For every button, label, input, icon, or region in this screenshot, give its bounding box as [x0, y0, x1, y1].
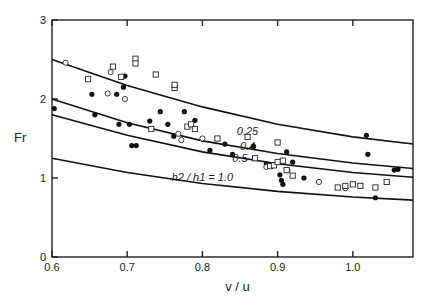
curve-label: h2 / h1 = 1.0 — [172, 171, 234, 183]
open-square-marker — [119, 74, 124, 79]
filled-circle-marker — [364, 133, 369, 138]
x-tick-label: 0.9 — [270, 261, 285, 273]
open-square-marker — [245, 134, 250, 139]
filled-circle-marker — [251, 144, 256, 149]
open-square-marker — [172, 82, 177, 87]
x-tick-label: 0.7 — [120, 261, 135, 273]
y-tick-label: 0 — [40, 251, 46, 263]
open-square-marker — [86, 77, 91, 82]
open-circle-marker — [179, 137, 184, 142]
open-square-marker — [384, 179, 389, 184]
filled-circle-marker — [147, 119, 152, 124]
curve-group: 0.250.40.5h2 / h1 = 1.0 — [52, 60, 413, 201]
open-circle-marker — [63, 60, 68, 65]
open-square-marker — [133, 61, 138, 66]
filled-circle-marker — [121, 85, 126, 90]
filled-circle-marker — [280, 182, 285, 187]
open-square-marker — [153, 72, 158, 77]
open-square-marker — [284, 168, 289, 173]
x-tick-label: 0.8 — [195, 261, 210, 273]
y-tick-label: 2 — [40, 93, 46, 105]
open-square-marker — [252, 156, 257, 161]
filled-circle-marker — [290, 160, 295, 165]
open-square-marker — [290, 173, 295, 178]
filled-circle-marker — [230, 152, 235, 157]
filled-circle-marker — [116, 122, 121, 127]
open-circle-marker — [200, 136, 205, 141]
filled-circle-marker — [301, 175, 306, 180]
open-square-marker — [275, 160, 280, 165]
x-tick-label: 1.0 — [345, 261, 360, 273]
filled-circle-marker — [284, 149, 289, 154]
open-square-marker — [373, 185, 378, 190]
open-square-marker — [149, 126, 154, 131]
filled-circle-marker — [52, 106, 57, 111]
open-square-marker — [350, 182, 355, 187]
filled-circle-marker — [395, 167, 400, 172]
open-square-marker — [110, 64, 115, 69]
x-axis-label: v / u — [225, 279, 250, 294]
y-axis-label: Fr — [14, 130, 27, 145]
filled-circle-marker — [129, 143, 134, 148]
open-square-marker — [343, 183, 348, 188]
x-tick-label: 0.6 — [44, 261, 59, 273]
filled-circle-marker — [277, 172, 282, 177]
open-square-marker — [275, 140, 280, 145]
filled-circle-marker — [207, 148, 212, 153]
open-circle-marker — [108, 70, 113, 75]
y-tick-label: 3 — [40, 14, 46, 26]
open-circle-marker — [316, 179, 321, 184]
chart: 0.60.70.80.91.00123 0.250.40.5h2 / h1 = … — [0, 0, 428, 303]
open-square-marker — [358, 183, 363, 188]
filled-circle-marker — [373, 195, 378, 200]
open-square-marker — [280, 158, 285, 163]
open-circle-marker — [105, 91, 110, 96]
open-circle-marker — [176, 131, 181, 136]
filled-circle-marker — [92, 112, 97, 117]
filled-circle-marker — [134, 143, 139, 148]
curve-line — [52, 60, 413, 145]
y-tick-label: 1 — [40, 172, 46, 184]
filled-circle-marker — [365, 152, 370, 157]
open-square-marker — [215, 136, 220, 141]
filled-circle-marker — [89, 92, 94, 97]
filled-circle-marker — [182, 109, 187, 114]
filled-circle-marker — [222, 141, 227, 146]
open-square-marker — [335, 185, 340, 190]
open-circle-marker — [122, 96, 127, 101]
open-square-marker — [192, 126, 197, 131]
filled-circle-marker — [158, 109, 163, 114]
plot-frame — [52, 20, 413, 257]
filled-circle-marker — [127, 122, 132, 127]
filled-circle-marker — [165, 122, 170, 127]
filled-circle-marker — [114, 92, 119, 97]
